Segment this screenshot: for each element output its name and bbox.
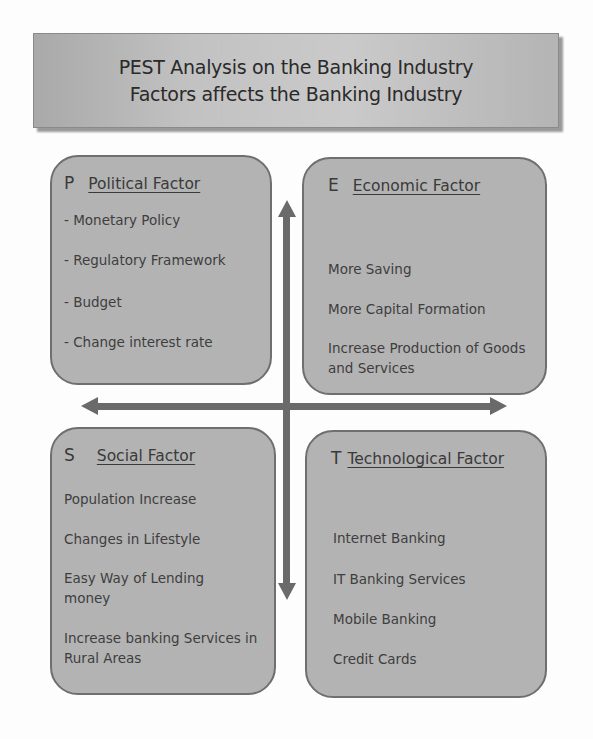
arrow-right-icon (490, 397, 507, 415)
economic-factor-box: EEconomic Factor More Saving More Capita… (302, 157, 547, 395)
social-factor-header: SSocial Factor (64, 445, 195, 465)
title-line-1: PEST Analysis on the Banking Industry (119, 54, 474, 81)
political-title: Political Factor (88, 175, 200, 193)
arrow-up-icon (278, 200, 296, 217)
title-line-2: Factors affects the Banking Industry (130, 81, 462, 108)
technological-factor-header: TTechnological Factor (331, 448, 504, 468)
social-letter: S (64, 445, 75, 465)
list-item: - Regulatory Framework (64, 250, 226, 270)
arrow-down-icon (278, 583, 296, 600)
economic-letter: E (328, 175, 339, 195)
technological-title: Technological Factor (347, 450, 504, 468)
list-item: - Budget (64, 292, 122, 312)
political-factor-header: PPolitical Factor (64, 173, 200, 193)
list-item: Easy Way of Lending money (64, 568, 234, 608)
list-item: Increase Production of Goods and Service… (328, 338, 528, 378)
list-item: More Capital Formation (328, 299, 486, 319)
social-factor-box: SSocial Factor Population Increase Chang… (50, 427, 276, 695)
economic-factor-header: EEconomic Factor (328, 175, 480, 195)
arrow-left-icon (81, 397, 98, 415)
economic-title: Economic Factor (353, 177, 480, 195)
list-item: Internet Banking (333, 528, 446, 548)
list-item: IT Banking Services (333, 569, 466, 589)
social-title: Social Factor (97, 447, 195, 465)
vertical-arrow-shaft (283, 215, 290, 583)
list-item: Increase banking Services in Rural Areas (64, 628, 274, 668)
title-banner: PEST Analysis on the Banking Industry Fa… (33, 33, 559, 128)
list-item: Changes in Lifestyle (64, 529, 200, 549)
list-item: - Change interest rate (64, 332, 213, 352)
political-factor-box: PPolitical Factor - Monetary Policy - Re… (50, 155, 272, 385)
list-item: Population Increase (64, 489, 196, 509)
horizontal-arrow-shaft (97, 403, 490, 410)
list-item: More Saving (328, 259, 411, 279)
technological-factor-box: TTechnological Factor Internet Banking I… (305, 430, 547, 698)
list-item: Credit Cards (333, 649, 417, 669)
political-letter: P (64, 173, 74, 193)
list-item: - Monetary Policy (64, 210, 180, 230)
list-item: Mobile Banking (333, 609, 436, 629)
technological-letter: T (331, 448, 341, 468)
